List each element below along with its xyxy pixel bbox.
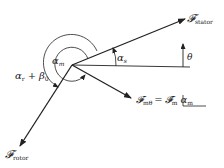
resultant-vector-arrow [72,65,131,98]
phasor-diagram: 𝓕stator 𝓕rotor 𝓕mθ=𝓕̂mαm αs αm αr+β0 θ [0,0,224,168]
stator-label: 𝓕stator [187,12,213,25]
alpha-s-arc [113,48,116,66]
resultant-equation-label: 𝓕mθ=𝓕̂mαm [136,94,193,106]
stator-vector-arrow [72,19,185,65]
alpha-r-beta0-label: αr+β0 [15,70,49,82]
reference-axis [72,65,190,67]
rotor-label: 𝓕rotor [5,148,29,161]
alpha-m-label: αm [52,55,65,67]
alpha-s-label: αs [117,52,127,64]
theta-label: θ [187,52,193,62]
